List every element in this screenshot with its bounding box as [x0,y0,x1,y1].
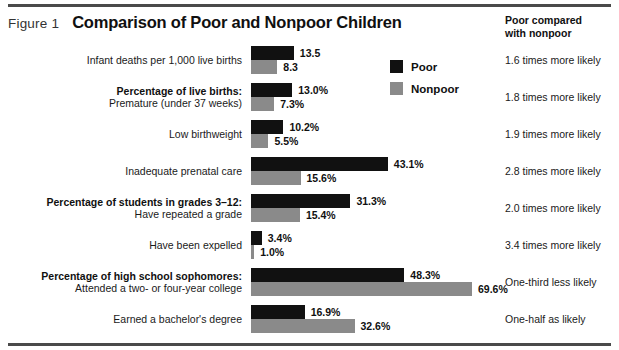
row-label: Low birthweight [10,128,242,141]
row-bars: 3.4%1.0% [251,231,292,259]
bar-rect-poor [251,305,305,319]
row-category-label: Have repeated a grade [10,208,242,221]
row-category-label: Infant deaths per 1,000 live births [10,54,242,67]
top-rule [8,4,611,7]
comparison-header-line2: with nonpoor [505,27,615,40]
row-bars: 43.1%15.6% [251,157,424,185]
chart-row-group: Have been expelled3.4%1.0%3.4 times more… [0,231,619,259]
bar-value-label-nonpoor: 5.5% [274,135,298,147]
figure-header: Figure 1 Comparison of Poor and Nonpoor … [8,13,402,32]
chart-row-group: Percentage of live births:Premature (und… [0,83,619,111]
row-bars: 48.3%69.6% [251,268,508,296]
bar-value-label-poor: 16.9% [311,306,341,318]
bar-poor: 13.5 [251,46,320,60]
bar-poor: 3.4% [251,231,292,245]
row-group-heading: Percentage of students in grades 3–12: [10,196,242,209]
bar-rect-nonpoor [251,208,300,222]
bar-value-label-poor: 48.3% [410,269,440,281]
bar-poor: 48.3% [251,268,508,282]
row-label: Have been expelled [10,239,242,252]
bar-nonpoor: 69.6% [251,282,508,296]
comparison-text: 2.8 times more likely [505,165,617,177]
bar-poor: 43.1% [251,157,424,171]
row-label: Percentage of live births:Premature (und… [10,85,242,110]
figure-container: Figure 1 Comparison of Poor and Nonpoor … [0,0,619,350]
row-bars: 31.3%15.4% [251,194,386,222]
bar-value-label-nonpoor: 1.0% [260,246,284,258]
bar-rect-poor [251,83,292,97]
row-bars: 13.58.3 [251,46,320,74]
bar-value-label-nonpoor: 15.6% [307,172,337,184]
row-group-heading: Percentage of high school sophomores: [10,270,242,283]
bar-nonpoor: 8.3 [251,60,320,74]
row-bars: 13.0%7.3% [251,83,328,111]
bar-nonpoor: 32.6% [251,319,390,333]
bar-value-label-poor: 43.1% [394,158,424,170]
row-category-label: Attended a two- or four-year college [10,282,242,295]
chart-row-group: Infant deaths per 1,000 live births13.58… [0,46,619,74]
bar-rect-poor [251,194,350,208]
bar-nonpoor: 1.0% [251,245,292,259]
bottom-rule [8,343,611,346]
bar-value-label-nonpoor: 7.3% [280,98,304,110]
bar-rect-nonpoor [251,319,355,333]
bar-value-label-poor: 10.2% [289,121,319,133]
chart-row-group: Low birthweight10.2%5.5%1.9 times more l… [0,120,619,148]
bar-rect-nonpoor [251,134,268,148]
bar-value-label-nonpoor: 15.4% [306,209,336,221]
bar-poor: 13.0% [251,83,328,97]
row-category-label: Earned a bachelor's degree [10,313,242,326]
row-label: Infant deaths per 1,000 live births [10,54,242,67]
comparison-text: 3.4 times more likely [505,239,617,251]
row-group-heading: Percentage of live births: [10,85,242,98]
bar-nonpoor: 15.4% [251,208,386,222]
comparison-text: One-third less likely [505,276,617,288]
comparison-text: 2.0 times more likely [505,202,617,214]
bar-nonpoor: 5.5% [251,134,319,148]
chart-row-group: Percentage of students in grades 3–12:Ha… [0,194,619,222]
bar-value-label-nonpoor: 8.3 [283,61,298,73]
comparison-text: 1.9 times more likely [505,128,617,140]
bar-value-label-poor: 31.3% [356,195,386,207]
chart-row-group: Inadequate prenatal care43.1%15.6%2.8 ti… [0,157,619,185]
row-label: Inadequate prenatal care [10,165,242,178]
chart-row-group: Percentage of high school sophomores:Att… [0,268,619,296]
row-bars: 10.2%5.5% [251,120,319,148]
comparison-text: 1.6 times more likely [505,54,617,66]
row-category-label: Low birthweight [10,128,242,141]
chart-row-group: Earned a bachelor's degree16.9%32.6%One-… [0,305,619,333]
bar-rect-nonpoor [251,60,277,74]
row-label: Earned a bachelor's degree [10,313,242,326]
comparison-column-header: Poor compared with nonpoor [505,14,615,40]
bar-rect-nonpoor [251,245,254,259]
comparison-header-line1: Poor compared [505,14,615,27]
figure-number: Figure 1 [8,16,59,31]
page-title: Comparison of Poor and Nonpoor Children [72,13,402,32]
bar-rect-poor [251,120,283,134]
bar-rect-poor [251,268,404,282]
bar-rect-nonpoor [251,282,472,296]
bar-nonpoor: 15.6% [251,171,424,185]
row-bars: 16.9%32.6% [251,305,390,333]
bar-value-label-poor: 13.0% [298,84,328,96]
row-label: Percentage of students in grades 3–12:Ha… [10,196,242,221]
comparison-text: One-half as likely [505,313,617,325]
bar-rect-nonpoor [251,97,274,111]
bar-value-label-nonpoor: 69.6% [478,283,508,295]
bar-poor: 10.2% [251,120,319,134]
bar-value-label-poor: 13.5 [300,47,320,59]
bar-rect-poor [251,157,388,171]
bar-value-label-poor: 3.4% [268,232,292,244]
row-category-label: Inadequate prenatal care [10,165,242,178]
row-category-label: Premature (under 37 weeks) [10,97,242,110]
bar-poor: 31.3% [251,194,386,208]
row-label: Percentage of high school sophomores:Att… [10,270,242,295]
bar-value-label-nonpoor: 32.6% [361,320,391,332]
bar-rect-nonpoor [251,171,301,185]
bar-nonpoor: 7.3% [251,97,328,111]
row-category-label: Have been expelled [10,239,242,252]
bar-rect-poor [251,46,294,60]
comparison-text: 1.8 times more likely [505,91,617,103]
bar-rect-poor [251,231,262,245]
bar-poor: 16.9% [251,305,390,319]
